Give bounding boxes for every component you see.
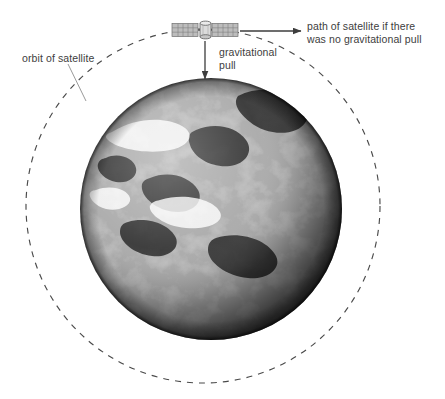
- satellite-solar-panel-right: [212, 24, 238, 37]
- label-orbit-of-satellite: orbit of satellite: [22, 52, 94, 65]
- satellite: [172, 21, 238, 39]
- satellite-solar-panel-left: [172, 24, 198, 37]
- satellite-body: [200, 21, 211, 39]
- label-path-no-gravity: path of satellite if there was no gravit…: [307, 20, 422, 46]
- earth: [78, 76, 346, 344]
- diagram-canvas: path of satellite if there was no gravit…: [0, 0, 445, 399]
- label-gravitational-pull: gravitational pull: [219, 46, 277, 72]
- orbit-label-leader-line: [68, 64, 86, 101]
- earth-limb: [80, 78, 342, 340]
